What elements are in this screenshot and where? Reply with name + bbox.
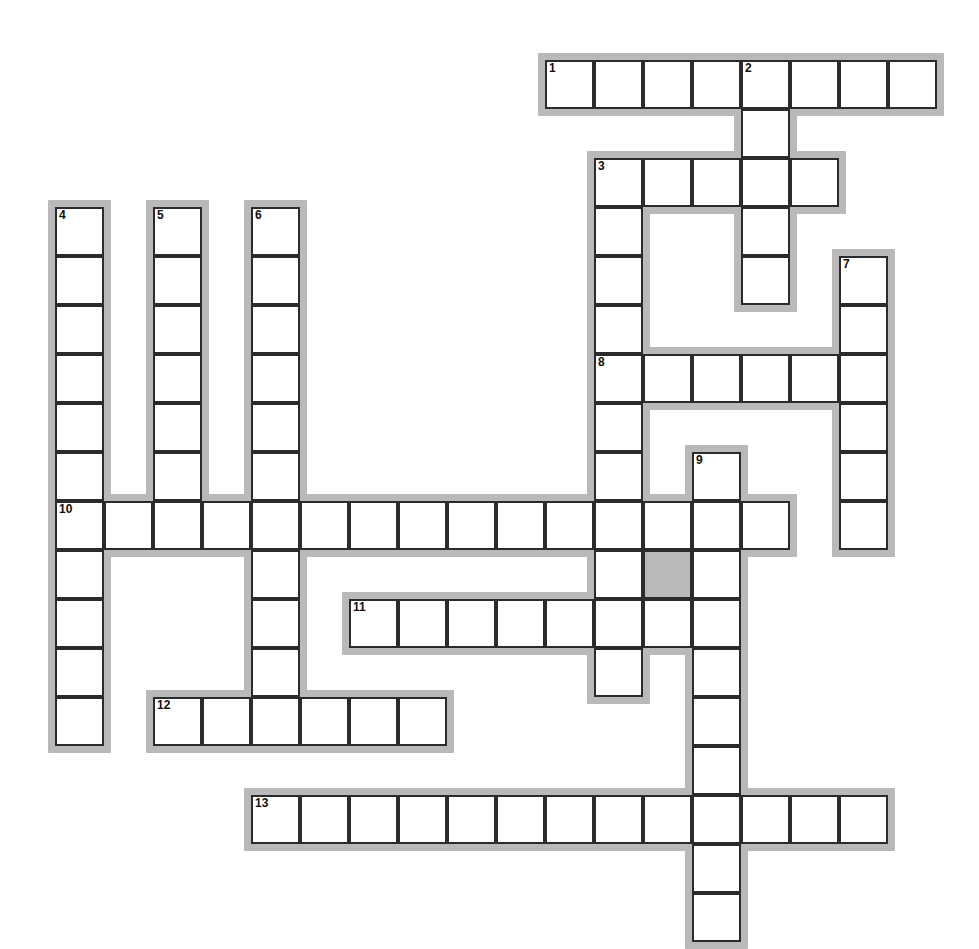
crossword-cell[interactable] — [153, 501, 202, 550]
crossword-cell[interactable] — [643, 158, 692, 207]
crossword-cell[interactable] — [398, 795, 447, 844]
crossword-cell[interactable] — [643, 354, 692, 403]
crossword-cell[interactable] — [692, 354, 741, 403]
crossword-cell[interactable] — [741, 501, 790, 550]
crossword-cell[interactable] — [594, 795, 643, 844]
crossword-cell[interactable]: 13 — [251, 795, 300, 844]
crossword-cell-shaded[interactable] — [643, 550, 692, 599]
crossword-cell[interactable] — [692, 501, 741, 550]
crossword-cell[interactable]: 5 — [153, 207, 202, 256]
crossword-cell[interactable]: 7 — [839, 256, 888, 305]
crossword-cell[interactable] — [447, 501, 496, 550]
crossword-cell[interactable] — [55, 599, 104, 648]
crossword-cell[interactable] — [251, 599, 300, 648]
crossword-cell[interactable] — [447, 795, 496, 844]
crossword-cell[interactable]: 6 — [251, 207, 300, 256]
crossword-cell[interactable] — [202, 501, 251, 550]
crossword-cell[interactable] — [55, 305, 104, 354]
crossword-cell[interactable] — [839, 501, 888, 550]
crossword-cell[interactable] — [741, 256, 790, 305]
crossword-cell[interactable] — [55, 452, 104, 501]
crossword-cell[interactable] — [594, 305, 643, 354]
crossword-cell[interactable] — [692, 550, 741, 599]
crossword-cell[interactable] — [55, 256, 104, 305]
crossword-cell[interactable] — [55, 550, 104, 599]
crossword-cell[interactable] — [643, 599, 692, 648]
crossword-cell[interactable] — [692, 795, 741, 844]
crossword-cell[interactable] — [643, 501, 692, 550]
crossword-cell[interactable]: 2 — [741, 60, 790, 109]
crossword-cell[interactable] — [447, 599, 496, 648]
crossword-cell[interactable] — [888, 60, 937, 109]
crossword-cell[interactable] — [349, 795, 398, 844]
crossword-cell[interactable] — [839, 403, 888, 452]
crossword-cell[interactable] — [545, 501, 594, 550]
crossword-cell[interactable] — [251, 403, 300, 452]
crossword-cell[interactable] — [153, 305, 202, 354]
crossword-cell[interactable]: 12 — [153, 697, 202, 746]
crossword-cell[interactable] — [839, 354, 888, 403]
crossword-cell[interactable] — [251, 354, 300, 403]
crossword-cell[interactable] — [545, 795, 594, 844]
crossword-cell[interactable]: 11 — [349, 599, 398, 648]
crossword-cell[interactable] — [398, 697, 447, 746]
crossword-cell[interactable]: 1 — [545, 60, 594, 109]
crossword-cell[interactable] — [692, 599, 741, 648]
crossword-cell[interactable] — [692, 648, 741, 697]
crossword-cell[interactable] — [251, 256, 300, 305]
crossword-cell[interactable]: 9 — [692, 452, 741, 501]
crossword-cell[interactable] — [692, 746, 741, 795]
crossword-cell[interactable] — [741, 795, 790, 844]
crossword-cell[interactable] — [349, 697, 398, 746]
crossword-cell[interactable]: 4 — [55, 207, 104, 256]
crossword-cell[interactable] — [643, 60, 692, 109]
crossword-cell[interactable] — [153, 354, 202, 403]
crossword-cell[interactable] — [104, 501, 153, 550]
crossword-cell[interactable] — [594, 256, 643, 305]
crossword-cell[interactable] — [153, 452, 202, 501]
crossword-cell[interactable] — [496, 501, 545, 550]
crossword-cell[interactable] — [251, 501, 300, 550]
crossword-cell[interactable] — [251, 305, 300, 354]
crossword-cell[interactable] — [55, 403, 104, 452]
crossword-cell[interactable] — [643, 795, 692, 844]
crossword-cell[interactable] — [251, 452, 300, 501]
crossword-cell[interactable] — [594, 207, 643, 256]
crossword-cell[interactable] — [545, 599, 594, 648]
crossword-cell[interactable] — [251, 697, 300, 746]
crossword-cell[interactable] — [692, 60, 741, 109]
crossword-cell[interactable] — [398, 501, 447, 550]
crossword-cell[interactable] — [594, 403, 643, 452]
crossword-cell[interactable] — [300, 697, 349, 746]
crossword-cell[interactable] — [741, 158, 790, 207]
crossword-cell[interactable] — [398, 599, 447, 648]
crossword-cell[interactable] — [349, 501, 398, 550]
crossword-cell[interactable] — [594, 501, 643, 550]
crossword-cell[interactable] — [251, 648, 300, 697]
crossword-cell[interactable] — [839, 60, 888, 109]
crossword-cell[interactable] — [692, 844, 741, 893]
crossword-cell[interactable] — [594, 60, 643, 109]
crossword-cell[interactable] — [839, 452, 888, 501]
crossword-cell[interactable] — [790, 158, 839, 207]
crossword-cell[interactable] — [55, 697, 104, 746]
crossword-cell[interactable] — [594, 452, 643, 501]
crossword-cell[interactable] — [251, 550, 300, 599]
crossword-cell[interactable] — [741, 109, 790, 158]
crossword-cell[interactable] — [692, 697, 741, 746]
crossword-cell[interactable] — [496, 795, 545, 844]
crossword-cell[interactable]: 8 — [594, 354, 643, 403]
crossword-cell[interactable] — [790, 354, 839, 403]
crossword-cell[interactable] — [692, 158, 741, 207]
crossword-cell[interactable] — [202, 697, 251, 746]
crossword-cell[interactable] — [594, 550, 643, 599]
crossword-cell[interactable] — [741, 354, 790, 403]
crossword-cell[interactable] — [300, 501, 349, 550]
crossword-cell[interactable] — [790, 795, 839, 844]
crossword-cell[interactable] — [839, 305, 888, 354]
crossword-cell[interactable] — [300, 795, 349, 844]
crossword-cell[interactable] — [594, 648, 643, 697]
crossword-cell[interactable] — [55, 354, 104, 403]
crossword-cell[interactable] — [153, 256, 202, 305]
crossword-cell[interactable]: 10 — [55, 501, 104, 550]
